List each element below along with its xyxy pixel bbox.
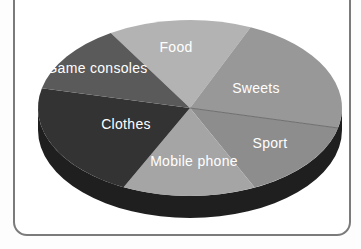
slice-label-food: Food [159,39,192,55]
slice-label-clothes: Clothes [101,116,151,132]
slice-label-mobile-phone: Mobile phone [150,153,238,169]
worksheet-page: FoodSweetsSportMobile phoneClothesGame c… [0,0,361,249]
slice-label-game-consoles: Game consoles [46,60,147,76]
slice-label-sweets: Sweets [232,80,280,96]
pie-chart-3d: FoodSweetsSportMobile phoneClothesGame c… [0,0,361,249]
slice-label-sport: Sport [253,135,288,151]
